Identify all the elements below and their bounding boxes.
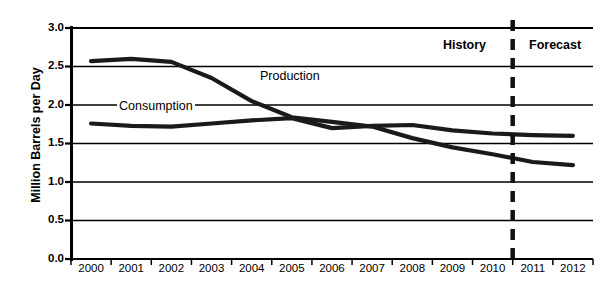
y-axis-ticks [65,28,71,259]
y-tick-label: 3.0 [30,22,64,34]
x-tick-label: 2002 [151,262,191,275]
x-tick-label: 2004 [232,262,272,275]
plot-area [71,28,593,259]
y-tick-label: 2.0 [30,99,64,111]
x-tick-label: 2012 [553,262,593,275]
plot-svg [71,28,593,259]
x-tick-label: 2007 [352,262,392,275]
y-tick-label: 1.5 [30,137,64,149]
x-tick-label: 2003 [191,262,231,275]
x-tick-label: 2000 [71,262,111,275]
x-tick-label: 2001 [111,262,151,275]
series-label-consumption: Consumption [117,99,195,113]
y-tick-label: 0.5 [30,214,64,226]
y-axis-tick-labels: 3.0 2.5 2.0 1.5 1.0 0.5 0.0 [28,0,64,295]
x-tick-label: 2005 [272,262,312,275]
y-tick-label: 2.5 [30,60,64,72]
x-tick-label: 2010 [473,262,513,275]
chart-container: Million Barrels per Day 3.0 2.5 2.0 1.5 … [0,0,605,295]
period-label-history: History [441,38,488,52]
y-tick-label: 1.0 [30,176,64,188]
x-tick-label: 2008 [392,262,432,275]
x-axis-tick-labels: 2000200120022003200420052006200720082009… [71,262,593,288]
y-tick-label: 0.0 [30,253,64,265]
period-label-forecast: Forecast [527,38,583,52]
x-tick-label: 2009 [432,262,472,275]
series-label-production: Production [258,69,322,83]
x-tick-label: 2006 [312,262,352,275]
x-tick-label: 2011 [513,262,553,275]
